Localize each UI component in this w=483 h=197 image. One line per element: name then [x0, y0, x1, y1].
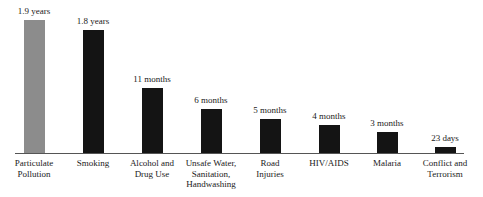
- category-label: Conflict and Terrorism: [405, 158, 483, 179]
- bar-value-label: 1.9 years: [18, 6, 51, 16]
- bar-value-label: 1.8 years: [77, 16, 110, 26]
- bar-value-label: 3 months: [370, 118, 403, 128]
- bar-value-label: 11 months: [133, 74, 170, 84]
- bar: [24, 20, 45, 153]
- bar: [260, 119, 281, 153]
- bar: [142, 88, 163, 153]
- bar: [83, 30, 104, 153]
- bar: [435, 147, 456, 153]
- bar-value-label: 6 months: [194, 95, 227, 105]
- bar: [201, 109, 222, 153]
- bar: [319, 125, 340, 153]
- bar-value-label: 5 months: [253, 105, 286, 115]
- bar-value-label: 23 days: [431, 133, 459, 143]
- life-expectancy-bar-chart: 1.9 yearsParticulate Pollution1.8 yearsS…: [0, 0, 483, 197]
- bar-value-label: 4 months: [312, 111, 345, 121]
- bar: [377, 132, 398, 153]
- x-axis-line: [15, 153, 464, 154]
